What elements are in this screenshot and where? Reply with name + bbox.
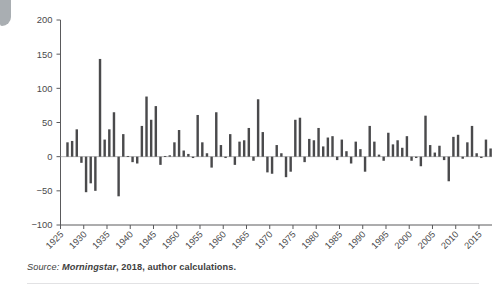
bar [355,142,357,157]
bar [215,112,217,156]
bar [313,140,315,156]
bar [224,157,226,158]
bar [485,140,487,157]
bar [206,153,208,156]
bar [289,157,291,172]
bar [345,151,347,156]
bar [169,155,171,156]
bar [80,157,82,163]
bar [443,157,445,160]
x-tick-label: 1930 [67,229,89,251]
bar [183,151,185,157]
bar [127,156,129,157]
bar [85,157,87,193]
y-tick-label: 0 [47,151,52,162]
bar [280,153,282,156]
bar [299,118,301,157]
figure-container: −100−50050100150200192519301935194019451… [0,0,504,290]
bar [187,154,189,157]
bar [248,128,250,157]
bar [210,157,212,168]
bar [71,141,73,157]
bar [234,157,236,165]
y-tick-label: 50 [42,117,52,128]
bar [350,157,352,164]
bar [359,149,361,157]
bar [480,157,482,158]
bar [150,120,152,157]
bar [448,157,450,182]
x-tick-label: 2005 [416,229,438,251]
bar [401,148,403,157]
bar [173,142,175,156]
bar [131,157,133,162]
bar [136,157,138,164]
x-tick-label: 1970 [253,229,275,251]
y-tick-label: 100 [37,83,53,94]
bar [294,120,296,157]
caption-source-rest: , 2018, author calculations. [116,262,236,272]
bar [392,144,394,156]
bar [420,157,422,167]
bar [369,126,371,157]
bar [434,153,436,157]
bar [94,157,96,191]
bar [196,115,198,157]
bar [378,155,380,157]
bar [99,59,101,157]
bar [322,146,324,156]
bar [462,157,464,159]
bar [364,157,366,172]
bar [438,146,440,157]
bar [257,99,259,156]
x-tick-label: 1965 [230,229,252,251]
y-tick-label: 150 [37,49,53,60]
bar [271,157,273,174]
bar [373,142,375,157]
y-tick-label: −100 [31,219,52,230]
bar [76,129,78,156]
x-tick-label: 1980 [300,229,322,251]
bar-chart: −100−50050100150200192519301935194019451… [0,6,504,254]
x-tick-label: 1945 [137,229,159,251]
bar [108,129,110,156]
bar [262,132,264,157]
bar [238,142,240,157]
x-tick-label: 1975 [276,229,298,251]
bar [155,106,157,157]
source-caption: Source: Morningstar, 2018, author calcul… [27,262,236,272]
bar [145,97,147,157]
y-tick-label: 200 [37,14,53,25]
bar [141,126,143,157]
bar [90,157,92,184]
bar [178,130,180,157]
bar [341,140,343,157]
x-tick-label: 1955 [183,229,205,251]
x-tick-label: 2010 [439,229,461,251]
bar [122,134,124,157]
bar [429,145,431,157]
bar [159,157,161,165]
x-tick-label: 1935 [90,229,112,251]
bar [243,140,245,156]
bar [382,157,384,161]
bar [415,157,417,158]
bar [406,136,408,157]
bar [466,142,468,156]
bottom-divider [27,283,479,284]
bar [336,157,338,160]
bar-series [66,59,492,196]
caption-source-label: Source: [27,262,59,272]
bar [113,112,115,156]
bar [475,153,477,156]
bar [308,139,310,157]
y-tick-label: −50 [37,185,53,196]
bar [489,148,491,156]
bar [285,157,287,178]
bar [410,157,412,161]
x-tick-label: 1925 [44,229,66,251]
bar [317,128,319,157]
caption-source-name: Morningstar [59,262,116,272]
bar [252,157,254,161]
bar [452,137,454,157]
